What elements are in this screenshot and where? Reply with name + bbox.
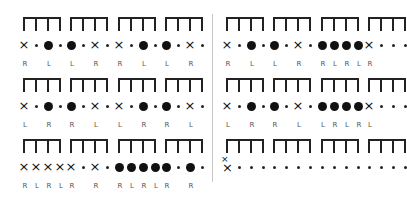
cross-note-icon: × bbox=[184, 100, 196, 112]
note-stem bbox=[47, 78, 49, 92]
note-stem bbox=[118, 78, 120, 92]
sticking-label: R bbox=[91, 60, 101, 68]
note-stem bbox=[177, 17, 179, 31]
rest-dot-icon bbox=[304, 161, 316, 173]
note-stem bbox=[189, 78, 191, 92]
beam-group bbox=[70, 17, 108, 31]
rest-dot-icon bbox=[233, 100, 245, 112]
cross-note-icon: × bbox=[363, 39, 375, 51]
note-stem bbox=[273, 139, 275, 153]
beam-line bbox=[165, 17, 203, 19]
note-stem bbox=[142, 139, 144, 153]
sticking-label: L bbox=[223, 121, 233, 129]
beam-line bbox=[368, 17, 406, 19]
rest-dot-icon bbox=[375, 39, 387, 51]
note-stem bbox=[201, 17, 203, 31]
note-stem bbox=[392, 17, 394, 31]
note-stem bbox=[345, 139, 347, 153]
beam-group bbox=[368, 139, 406, 153]
note-stem bbox=[392, 139, 394, 153]
rest-dot-icon bbox=[280, 39, 292, 51]
rest-dot-icon bbox=[280, 161, 292, 173]
rest-dot-icon bbox=[30, 39, 42, 51]
beam-group bbox=[165, 139, 203, 153]
note-stem bbox=[82, 139, 84, 153]
note-stem bbox=[285, 139, 287, 153]
filled-dot-note-icon bbox=[340, 39, 352, 51]
note-stem bbox=[23, 17, 25, 31]
sticking-label: R bbox=[186, 60, 196, 68]
note-stem bbox=[309, 139, 311, 153]
beam-group bbox=[23, 17, 61, 31]
rest-dot-icon bbox=[233, 161, 245, 173]
filled-dot-note-icon bbox=[268, 39, 280, 51]
note-stem bbox=[177, 139, 179, 153]
filled-dot-note-icon bbox=[42, 100, 54, 112]
cross-note-icon: × bbox=[89, 161, 101, 173]
note-stem bbox=[238, 78, 240, 92]
rest-dot-icon bbox=[196, 39, 208, 51]
beam-line bbox=[368, 139, 406, 141]
note-stem bbox=[226, 78, 228, 92]
notation-row-1: ×RLL×R×RLL×R bbox=[0, 17, 212, 77]
sticking-label: L bbox=[91, 121, 101, 129]
beam-line bbox=[23, 17, 61, 19]
cross-note-icon: × bbox=[113, 39, 125, 51]
note-stem bbox=[297, 139, 299, 153]
beam-line bbox=[273, 78, 311, 80]
note-stem bbox=[165, 139, 167, 153]
note-stem bbox=[333, 139, 335, 153]
note-stem bbox=[35, 17, 37, 31]
double-cross-note-icon: ×× bbox=[221, 161, 233, 173]
note-stem bbox=[47, 17, 49, 31]
note-stem bbox=[357, 139, 359, 153]
beam-group bbox=[273, 17, 311, 31]
sticking-label: R bbox=[318, 60, 328, 68]
note-stem bbox=[380, 78, 382, 92]
note-stem bbox=[130, 78, 132, 92]
note-stem bbox=[23, 78, 25, 92]
beam-line bbox=[70, 139, 108, 141]
note-stem bbox=[285, 78, 287, 92]
beam-line bbox=[165, 78, 203, 80]
sticking-label: L bbox=[330, 60, 340, 68]
note-stem bbox=[165, 78, 167, 92]
rest-dot-icon bbox=[304, 100, 316, 112]
cross-note-icon: × bbox=[18, 161, 30, 173]
note-stem bbox=[392, 78, 394, 92]
note-stem bbox=[142, 78, 144, 92]
rest-dot-icon bbox=[77, 39, 89, 51]
note-stem bbox=[189, 17, 191, 31]
sticking-label: R bbox=[342, 60, 352, 68]
note-stem bbox=[297, 17, 299, 31]
rest-dot-icon bbox=[363, 161, 375, 173]
filled-dot-note-icon bbox=[42, 39, 54, 51]
note-stem bbox=[321, 78, 323, 92]
sticking-label: L bbox=[67, 60, 77, 68]
cross-note-icon: × bbox=[221, 100, 233, 112]
sticking-label: R bbox=[247, 121, 257, 129]
note-stem bbox=[309, 78, 311, 92]
rest-dot-icon bbox=[328, 161, 340, 173]
note-stem bbox=[142, 17, 144, 31]
beam-line bbox=[118, 139, 156, 141]
cross-note-icon: × bbox=[292, 100, 304, 112]
sticking-label: L bbox=[139, 60, 149, 68]
rest-dot-icon bbox=[125, 39, 137, 51]
sticking-label: L bbox=[151, 182, 161, 190]
note-stem bbox=[94, 139, 96, 153]
sticking-label: R bbox=[115, 182, 125, 190]
note-stem bbox=[59, 17, 61, 31]
cross-note-icon: × bbox=[184, 39, 196, 51]
sticking-label: R bbox=[115, 60, 125, 68]
beam-line bbox=[273, 17, 311, 19]
filled-dot-note-icon bbox=[184, 161, 196, 173]
rest-dot-icon bbox=[375, 100, 387, 112]
note-stem bbox=[309, 17, 311, 31]
rest-dot-icon bbox=[172, 100, 184, 112]
cross-note-icon: × bbox=[89, 39, 101, 51]
note-stem bbox=[404, 139, 406, 153]
beam-line bbox=[23, 139, 61, 141]
filled-dot-note-icon bbox=[328, 39, 340, 51]
sticking-label: R bbox=[294, 60, 304, 68]
